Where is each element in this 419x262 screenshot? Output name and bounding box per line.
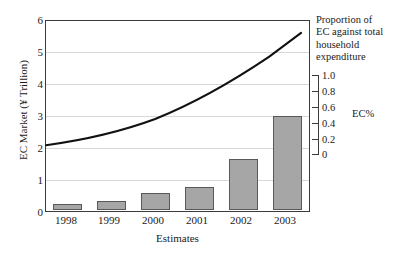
chart-figure: 6 5 4 3 2 1 0 EC Market (¥ Trillion) 199… [0,0,419,262]
note-line-4: expenditure [316,51,418,63]
secondary-tick-0-2 [312,139,319,140]
y-tick-4: 4 [29,79,43,90]
note-line-2: EC against total [316,26,418,38]
plot-area [45,20,310,212]
x-tick-2000: 2000 [131,214,175,227]
secondary-label-0-6: 0.6 [322,103,335,114]
y-tick-0: 0 [29,207,43,218]
secondary-tick-1-0 [312,75,319,76]
secondary-tick-0-6 [312,107,319,108]
x-tick-2003: 2003 [263,214,307,227]
note-line-3: household [316,39,418,51]
ec-percent-curve [46,21,309,211]
x-tick-1998: 1998 [44,214,88,227]
secondary-label-1-0: 1.0 [322,71,335,82]
x-tick-2002: 2002 [219,214,263,227]
secondary-label-0: 0 [322,150,327,161]
x-axis-title: Estimates [45,232,310,244]
note-line-1: Proportion of [316,14,418,26]
secondary-axis [312,75,322,155]
y-tick-2: 2 [29,143,43,154]
y-axis-title: EC Market (¥ Trillion) [17,35,29,185]
y-tick-1: 1 [29,175,43,186]
secondary-label-0-2: 0.2 [322,135,335,146]
y-tick-5: 5 [29,47,43,58]
secondary-tick-0 [312,154,319,155]
secondary-label-0-4: 0.4 [322,119,335,130]
x-tick-2001: 2001 [175,214,219,227]
secondary-axis-title: EC% [352,108,374,119]
x-tick-1999: 1999 [87,214,131,227]
secondary-axis-spine [318,75,319,155]
secondary-label-0-8: 0.8 [322,87,335,98]
secondary-axis-note: Proportion of EC against total household… [316,14,418,64]
y-tick-6: 6 [29,15,43,26]
secondary-tick-0-8 [312,91,319,92]
secondary-axis-tick-labels: 1.0 0.8 0.6 0.4 0.2 0 [322,75,352,155]
y-tick-3: 3 [29,111,43,122]
x-axis-ticks: 1998 1999 2000 2001 2002 2003 [45,214,310,230]
secondary-tick-0-4 [312,123,319,124]
